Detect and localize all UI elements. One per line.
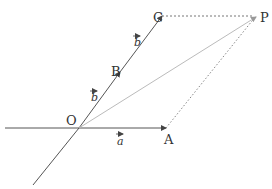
vector-b-label-2: b [133,36,141,49]
vector-b-text-1: b [91,91,98,104]
vector-b-arrow-ob [79,72,120,128]
label-a: A [163,132,174,147]
vector-diagram: O A B C P a b b [0,0,272,189]
vector-b-label-1: b [90,91,98,104]
diagonal-op-arrow [79,17,256,128]
oblique-line [33,128,79,185]
vector-a-text: a [117,135,124,148]
vector-a-label: a [116,134,124,148]
label-p: P [260,10,269,25]
label-c: C [153,10,163,25]
vector-b-text-2: b [134,36,141,49]
label-b: B [111,64,121,79]
label-o: O [66,113,77,128]
dotted-line-ap [166,16,256,128]
